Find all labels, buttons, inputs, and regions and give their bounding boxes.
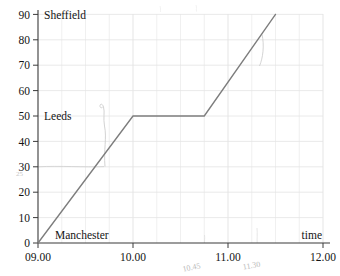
x-tick-label-1000: 10.00	[120, 251, 146, 263]
pencil-annotation-25: 25	[16, 170, 24, 178]
place-label-sheffield: Sheffield	[44, 9, 86, 21]
x-tick-label-1200: 12.00	[310, 251, 336, 263]
y-tick-label-70: 70	[19, 59, 31, 71]
chart-background	[0, 0, 340, 276]
chart-svg: 0 10 20 30 40 50 60 70 80 90 09.00 10.00…	[0, 0, 340, 276]
x-tick-label-1100: 11.00	[215, 251, 241, 263]
y-tick-label-0: 0	[24, 237, 30, 249]
travel-graph: 0 10 20 30 40 50 60 70 80 90 09.00 10.00…	[0, 0, 340, 276]
y-tick-label-10: 10	[19, 212, 31, 224]
x-tick-label-0900: 09.00	[25, 251, 51, 263]
y-tick-label-80: 80	[19, 34, 31, 46]
y-tick-label-50: 50	[19, 110, 31, 122]
y-tick-label-20: 20	[19, 186, 31, 198]
y-tick-label-90: 90	[19, 9, 31, 21]
y-tick-label-40: 40	[19, 136, 31, 148]
place-label-manchester: Manchester	[55, 229, 109, 241]
place-label-leeds: Leeds	[44, 110, 72, 122]
y-tick-label-60: 60	[19, 85, 31, 97]
x-axis-title: time	[302, 229, 322, 241]
